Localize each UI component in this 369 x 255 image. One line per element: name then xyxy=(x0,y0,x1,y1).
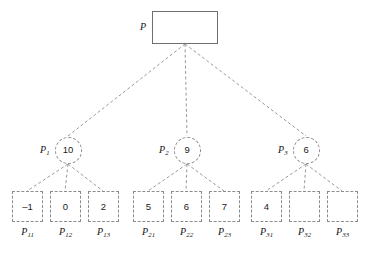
root-node-label: P xyxy=(140,22,146,32)
leaf-node-value: 0 xyxy=(63,202,68,212)
internal-node-value: 9 xyxy=(184,145,189,155)
leaf-node-p11[interactable]: –1 xyxy=(12,191,43,222)
internal-node-label-p2: P2 xyxy=(159,145,169,155)
leaf-node-value: 7 xyxy=(222,202,227,212)
leaf-node-p33[interactable] xyxy=(327,191,358,222)
leaf-node-p21[interactable]: 5 xyxy=(133,191,164,222)
internal-node-value: 6 xyxy=(303,145,308,155)
internal-node-label-p1: P1 xyxy=(40,145,50,155)
leaf-node-label-p32: P32 xyxy=(289,227,320,237)
leaf-node-value: 2 xyxy=(101,202,106,212)
internal-node-p1[interactable]: 10 xyxy=(55,137,82,164)
leaf-node-p12[interactable]: 0 xyxy=(50,191,81,222)
leaf-node-label-p23: P23 xyxy=(209,227,240,237)
root-node-box[interactable] xyxy=(152,11,218,44)
leaf-node-label-p11: P11 xyxy=(12,227,43,237)
leaf-node-label-p33: P33 xyxy=(327,227,358,237)
tree-diagram: P 10P19P26P3 –1P110P122P135P216P227P234P… xyxy=(0,0,369,255)
leaf-node-label-p31: P31 xyxy=(251,227,282,237)
leaf-node-label-p22: P22 xyxy=(171,227,202,237)
leaf-node-p13[interactable]: 2 xyxy=(88,191,119,222)
leaf-node-value: –1 xyxy=(22,202,33,212)
leaf-node-p22[interactable]: 6 xyxy=(171,191,202,222)
leaf-node-label-p21: P21 xyxy=(133,227,164,237)
internal-node-value: 10 xyxy=(63,145,73,155)
node-layer: P 10P19P26P3 –1P110P122P135P216P227P234P… xyxy=(0,0,369,255)
leaf-node-p23[interactable]: 7 xyxy=(209,191,240,222)
leaf-node-value: 5 xyxy=(146,202,151,212)
internal-node-p2[interactable]: 9 xyxy=(174,137,201,164)
internal-node-label-p3: P3 xyxy=(278,145,288,155)
leaf-node-label-p13: P13 xyxy=(88,227,119,237)
leaf-node-value: 4 xyxy=(264,202,269,212)
leaf-node-p32[interactable] xyxy=(289,191,320,222)
internal-node-p3[interactable]: 6 xyxy=(293,137,320,164)
leaf-node-p31[interactable]: 4 xyxy=(251,191,282,222)
leaf-node-label-p12: P12 xyxy=(50,227,81,237)
leaf-node-value: 6 xyxy=(184,202,189,212)
